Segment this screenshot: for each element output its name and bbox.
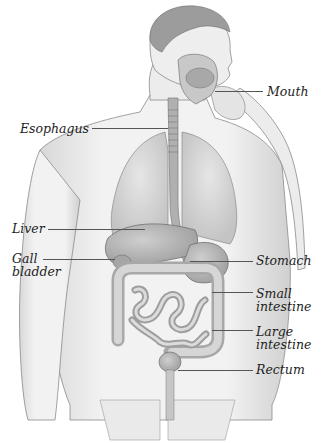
esophagus-leader-line <box>92 128 168 129</box>
large-intestine-leader-line <box>212 330 253 331</box>
rectum-leader-line <box>178 370 253 371</box>
label-esophagus-text: Esophagus <box>20 121 89 136</box>
label-rectum-text: Rectum <box>256 362 305 377</box>
stomach-leader-line <box>190 261 253 262</box>
label-liver-text: Liver <box>12 221 45 236</box>
label-mouth-text: Mouth <box>267 84 308 99</box>
label-gall-bladder-line2: bladder <box>12 265 61 278</box>
label-stomach-text: Stomach <box>256 253 311 268</box>
label-liver: Liver <box>12 222 45 235</box>
liver-leader-line <box>48 229 145 230</box>
label-gall-bladder: Gall bladder <box>12 252 61 278</box>
label-esophagus: Esophagus <box>20 122 89 135</box>
small-intestine-leader-line <box>212 292 253 293</box>
label-small-intestine-line2: intestine <box>256 300 311 313</box>
label-large-intestine: Large intestine <box>256 325 311 351</box>
label-stomach: Stomach <box>256 254 311 267</box>
label-rectum: Rectum <box>256 363 305 376</box>
label-large-intestine-line2: intestine <box>256 338 311 351</box>
digestive-system-diagram: Mouth Esophagus Liver Gall bladder Stoma… <box>0 0 322 443</box>
label-small-intestine: Small intestine <box>256 287 311 313</box>
mouth-leader-line <box>215 91 263 92</box>
label-mouth: Mouth <box>267 85 308 98</box>
